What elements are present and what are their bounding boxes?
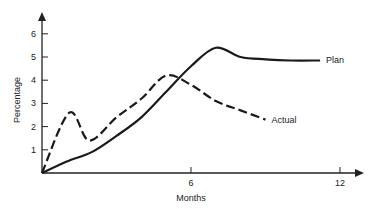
series-label-plan: Plan xyxy=(326,55,344,65)
y-axis-arrow-icon xyxy=(38,12,46,21)
y-tick-label: 5 xyxy=(31,52,36,62)
x-tick-label: 6 xyxy=(188,178,193,188)
axes xyxy=(38,12,364,177)
x-tick-label: 12 xyxy=(335,178,345,188)
x-axis-title: Months xyxy=(176,193,206,203)
y-tick-label: 6 xyxy=(31,29,36,39)
line-chart: 123456 612 Months Percentage PlanActual xyxy=(0,0,377,209)
y-tick-label: 4 xyxy=(31,75,36,85)
series: PlanActual xyxy=(42,48,344,173)
series-label-actual: Actual xyxy=(271,115,296,125)
x-ticks: 612 xyxy=(188,167,344,188)
y-tick-label: 3 xyxy=(31,98,36,108)
x-axis-arrow-icon xyxy=(355,169,364,177)
series-line-plan xyxy=(42,48,320,173)
y-tick-label: 1 xyxy=(31,145,36,155)
y-tick-label: 2 xyxy=(31,122,36,132)
y-ticks: 123456 xyxy=(31,29,48,155)
y-axis-title: Percentage xyxy=(12,77,22,123)
